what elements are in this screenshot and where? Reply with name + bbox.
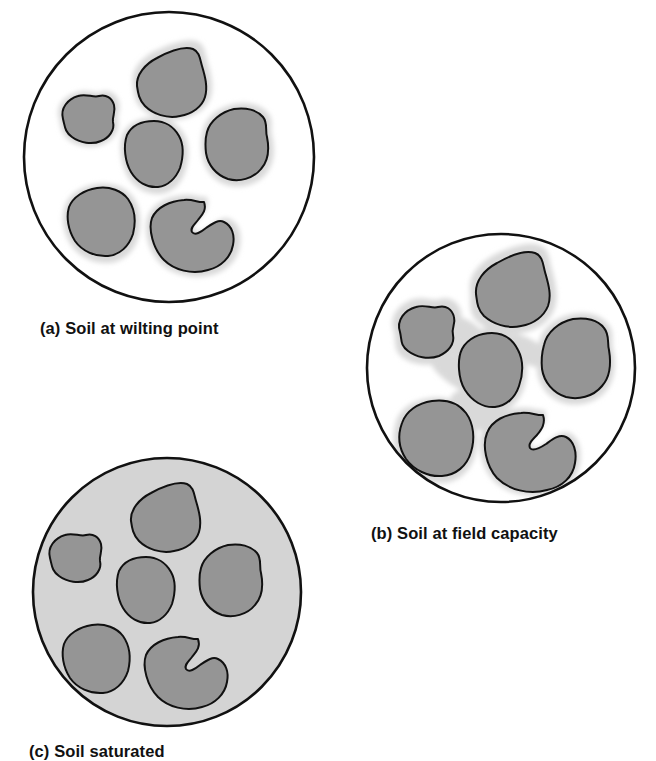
panel-a-caption: (a) Soil at wilting point [40,318,218,338]
panel-c-diagram [0,440,330,761]
aggregate [125,121,183,187]
panel-soil-at-wilting-point: (a) Soil at wilting point [0,0,330,345]
aggregate [49,534,101,582]
panel-b-caption: (b) Soil at field capacity [371,523,558,543]
aggregate [542,318,610,398]
aggregate [459,333,522,407]
panel-c-caption: (c) Soil saturated [29,741,165,761]
aggregate [399,401,473,477]
soil-moisture-figure: (a) Soil at wilting point [0,0,656,761]
aggregate [117,557,175,623]
aggregate [199,544,262,616]
aggregate [399,306,454,358]
panel-soil-at-field-capacity: (b) Soil at field capacity [330,210,656,555]
aggregate [62,95,114,143]
panel-soil-saturated: (c) Soil saturated [0,440,330,761]
panel-a-diagram [0,0,330,345]
panel-b-diagram [330,210,656,555]
aggregate [205,108,268,180]
